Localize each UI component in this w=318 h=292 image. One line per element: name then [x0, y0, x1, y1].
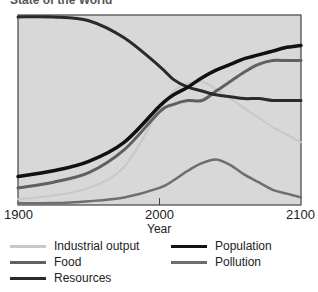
legend-swatch	[171, 261, 207, 264]
legend-label: Industrial output	[54, 239, 139, 253]
legend: Industrial output Food Resources Populat…	[0, 236, 318, 292]
legend-swatch	[10, 277, 46, 280]
legend-item-population: Population	[171, 238, 272, 254]
x-tick-label-1900: 1900	[4, 207, 33, 222]
chart-plot-area	[0, 0, 318, 215]
legend-label: Food	[54, 255, 81, 269]
x-tick-label-2000: 2000	[145, 207, 174, 222]
x-tick-label-2100: 2100	[286, 207, 315, 222]
legend-swatch	[10, 261, 46, 264]
legend-swatch	[10, 245, 46, 248]
x-axis-label: Year	[147, 222, 171, 236]
legend-swatch	[171, 245, 207, 248]
legend-item-pollution: Pollution	[171, 254, 261, 270]
legend-label: Population	[215, 239, 272, 253]
legend-label: Resources	[54, 271, 111, 285]
legend-item-industrial-output: Industrial output	[10, 238, 139, 254]
legend-item-food: Food	[10, 254, 81, 270]
legend-item-resources: Resources	[10, 270, 111, 286]
legend-label: Pollution	[215, 255, 261, 269]
